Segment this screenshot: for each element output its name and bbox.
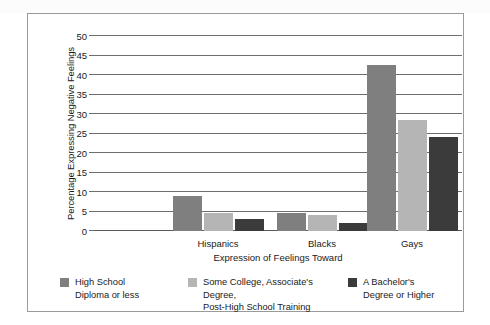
legend-label-line1: Some College, Associate's Degree, xyxy=(203,277,313,300)
legend-label-line2: Post-High School Training xyxy=(203,301,348,314)
chart-legend: High SchoolDiploma or lessSome College, … xyxy=(60,276,445,314)
y-tick-label: 5 xyxy=(82,207,87,217)
y-axis-title: Percentage Expressing Negative Feelings xyxy=(64,36,77,231)
y-tick-label: 30 xyxy=(76,109,87,119)
bars-layer: HispanicsBlacksGays xyxy=(94,36,462,231)
legend-swatch-icon xyxy=(348,278,357,287)
y-tick-label: 0 xyxy=(82,226,87,236)
y-tick-label: 50 xyxy=(76,31,87,41)
bar xyxy=(429,137,458,231)
scan-margin-top xyxy=(0,0,490,13)
y-tick-label: 20 xyxy=(76,148,87,158)
chart-figure: Percentage Expressing Negative Feelings … xyxy=(0,0,490,325)
legend-item: High SchoolDiploma or less xyxy=(60,276,188,301)
bar xyxy=(367,65,396,231)
legend-label-line1: A Bachelor's xyxy=(363,277,414,287)
x-tick-label: Gays xyxy=(365,238,460,249)
legend-swatch-icon xyxy=(60,278,69,287)
legend-label: Some College, Associate's Degree,Post-Hi… xyxy=(203,276,348,314)
y-tick-label: 25 xyxy=(76,129,87,139)
bar-group: Hispanics xyxy=(171,36,266,231)
legend-label: High SchoolDiploma or less xyxy=(75,276,139,301)
legend-label-line2: Degree or Higher xyxy=(363,289,434,302)
legend-item: Some College, Associate's Degree,Post-Hi… xyxy=(188,276,348,314)
bar xyxy=(308,215,337,231)
y-tick-label: 10 xyxy=(76,187,87,197)
legend-label: A Bachelor'sDegree or Higher xyxy=(363,276,434,301)
bar xyxy=(277,213,306,231)
bar xyxy=(398,120,427,231)
bar xyxy=(339,223,368,231)
legend-label-line2: Diploma or less xyxy=(75,289,139,302)
legend-label-line1: High School xyxy=(75,277,125,287)
y-tick-label: 15 xyxy=(76,168,87,178)
y-tick-label: 45 xyxy=(76,51,87,61)
chart-panel: Percentage Expressing Negative Feelings … xyxy=(27,13,464,312)
y-tick-label: 40 xyxy=(76,70,87,80)
plot-area: 05101520253035404550 HispanicsBlacksGays xyxy=(94,36,462,231)
bar xyxy=(204,213,233,231)
x-axis-title: Expression of Feelings Toward xyxy=(94,252,462,263)
y-tick-label: 35 xyxy=(76,90,87,100)
x-tick-label: Blacks xyxy=(275,238,370,249)
x-tick-label: Hispanics xyxy=(171,238,266,249)
bar-group: Blacks xyxy=(275,36,370,231)
legend-item: A Bachelor'sDegree or Higher xyxy=(348,276,444,301)
bar xyxy=(173,196,202,231)
legend-swatch-icon xyxy=(188,278,197,287)
bar xyxy=(235,219,264,231)
bar-group: Gays xyxy=(365,36,460,231)
